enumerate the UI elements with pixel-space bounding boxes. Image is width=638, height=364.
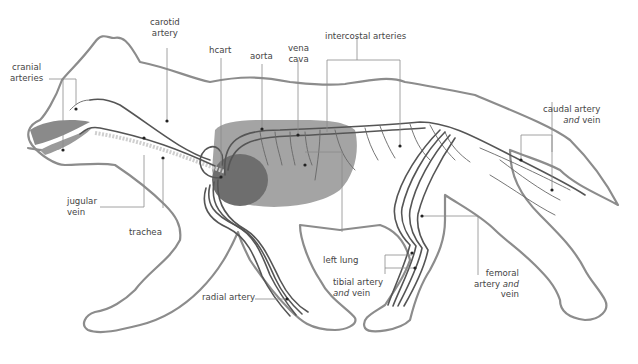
label-line: and vein <box>543 115 600 126</box>
label-tibial-artery-vein: tibial artery and vein <box>333 277 383 298</box>
label-italic: and <box>333 288 349 298</box>
label-cranial-arteries: cranial arteries <box>10 62 43 83</box>
label-line: and vein <box>333 288 383 299</box>
cat-circulatory-diagram: cranial arteries carotid artery hcart ao… <box>0 0 638 364</box>
label-line: caudal artery <box>543 104 600 115</box>
label-trachea: trachea <box>129 227 162 238</box>
label-text: vein <box>349 288 370 298</box>
label-left-lung: left lung <box>323 255 358 266</box>
label-line: radial artery <box>202 292 255 303</box>
cranial-vessel <box>70 100 90 110</box>
label-intercostal-arteries: intercostal arteries <box>325 31 406 42</box>
label-line: vein <box>67 207 97 218</box>
label-line: hcart <box>209 45 231 56</box>
label-line: aorta <box>250 51 273 62</box>
label-line: vena <box>288 43 309 54</box>
label-heart: hcart <box>209 45 231 56</box>
label-aorta: aorta <box>250 51 273 62</box>
label-line: artery and <box>474 279 519 290</box>
label-italic: and <box>503 279 519 289</box>
label-femoral-artery-vein: femoral artery and vein <box>474 268 519 300</box>
label-line: jugular <box>67 196 97 207</box>
label-line: tibial artery <box>333 277 383 288</box>
label-line: cranial <box>10 62 43 73</box>
label-carotid-artery: carotid artery <box>150 17 180 38</box>
label-line: cava <box>288 54 309 65</box>
label-text: artery <box>474 279 503 289</box>
label-text: vein <box>579 115 600 125</box>
label-line: vein <box>474 289 519 300</box>
label-line: arteries <box>10 73 43 84</box>
label-caudal-artery-vein: caudal artery and vein <box>543 104 600 125</box>
label-line: trachea <box>129 227 162 238</box>
heart <box>212 154 268 206</box>
label-italic: and <box>563 115 579 125</box>
label-line: artery <box>150 28 180 39</box>
diagram-drawing <box>0 0 638 364</box>
label-line: femoral <box>474 268 519 279</box>
label-line: left lung <box>323 255 358 266</box>
label-line: carotid <box>150 17 180 28</box>
label-jugular-vein: jugular vein <box>67 196 97 217</box>
label-radial-artery: radial artery <box>202 292 255 303</box>
label-line: intercostal arteries <box>325 31 406 42</box>
label-vena-cava: vena cava <box>288 43 309 64</box>
trachea <box>95 133 225 172</box>
